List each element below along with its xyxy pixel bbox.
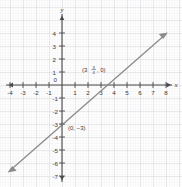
y-tick-label: 1 xyxy=(53,69,57,76)
coordinate-plane-svg: -4 -3 -2 -1 1 2 3 4 5 6 7 8 4 3 2 1 -1 -… xyxy=(0,0,182,187)
x-tick-label: 4 xyxy=(112,89,116,96)
x-tick-label: 7 xyxy=(151,89,155,96)
y-intercept-point xyxy=(61,123,64,126)
y-tick-label: -2 xyxy=(52,108,58,115)
x-tick-label: 5 xyxy=(125,89,129,96)
y-tick-label: -7 xyxy=(52,173,58,180)
x-tick-label: 1 xyxy=(73,89,77,96)
origin-label: 0 xyxy=(54,76,58,83)
x-intercept-label-open: (3 xyxy=(82,67,88,73)
x-tick-label: 2 xyxy=(86,89,90,96)
y-tick-label: -1 xyxy=(52,95,58,102)
y-tick-label: 3 xyxy=(53,43,57,50)
x-intercept-label-close: , 0) xyxy=(97,67,106,73)
x-tick-label: -2 xyxy=(33,89,39,96)
y-tick-label: 2 xyxy=(53,56,57,63)
x-tick-label: 8 xyxy=(164,89,168,96)
graph-figure: -4 -3 -2 -1 1 2 3 4 5 6 7 8 4 3 2 1 -1 -… xyxy=(0,0,182,187)
y-tick-label: -6 xyxy=(52,160,58,167)
x-tick-label: -1 xyxy=(46,89,52,96)
y-tick-label: -4 xyxy=(52,134,58,141)
y-intercept-label: (0, −3) xyxy=(68,125,86,131)
x-tick-label: 6 xyxy=(138,89,142,96)
x-tick-label: -4 xyxy=(7,89,13,96)
y-tick-label: -5 xyxy=(52,147,58,154)
y-tick-label: -3 xyxy=(52,121,58,128)
y-tick-label: 4 xyxy=(53,30,57,37)
x-tick-label: -3 xyxy=(20,89,26,96)
